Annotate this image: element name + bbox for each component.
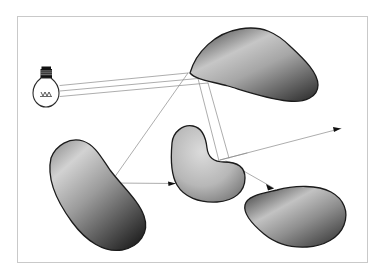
arrow-tip-middle-blob-icon xyxy=(168,182,176,187)
incident-ray-1 xyxy=(60,73,188,86)
diagram-stage: Light bulb illuminating curved surfaces … xyxy=(0,0,390,278)
light-bulb-icon xyxy=(33,67,59,108)
arrow-tip-right-icon xyxy=(333,127,341,132)
ray-diagram-canvas xyxy=(0,0,390,278)
ray-overlay-middle-exit xyxy=(220,153,247,160)
reflected-ray-top-to-middle-b xyxy=(208,83,229,158)
incident-ray-2 xyxy=(60,79,198,92)
blob-middle xyxy=(171,126,245,202)
ray-overlay-group xyxy=(220,153,247,160)
blob-bottom-right xyxy=(245,186,346,247)
blob-left xyxy=(50,140,146,250)
blob-top-right xyxy=(190,28,318,101)
incident-ray-3 xyxy=(60,83,208,97)
